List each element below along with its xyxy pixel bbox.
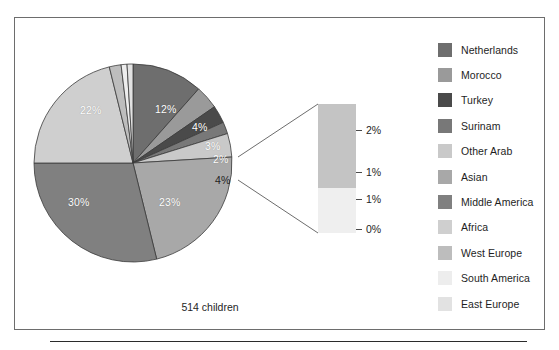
legend-label: Asian — [461, 171, 488, 183]
pie-slice-value-label: 4% — [192, 121, 207, 133]
legend-swatch — [438, 271, 452, 285]
tick-dash-icon — [356, 199, 362, 200]
legend-swatch — [438, 119, 452, 133]
pie-slice-value-label: 23% — [159, 196, 180, 208]
inset-tick-label: 1% — [366, 166, 381, 178]
legend-label: Turkey — [461, 94, 493, 106]
legend-label: Netherlands — [461, 44, 518, 56]
pie-slice-value-label: 2% — [213, 153, 228, 165]
tick-dash-icon — [356, 172, 362, 173]
legend-item: Other Arab — [438, 139, 543, 164]
legend-swatch — [438, 144, 452, 158]
legend-swatch — [438, 43, 452, 57]
legend-item: Africa — [438, 215, 543, 240]
tick-dash-icon — [356, 130, 362, 131]
legend-item: Surinam — [438, 113, 543, 138]
inset-tick: 0% — [356, 223, 381, 235]
inset-tick-label: 2% — [366, 124, 381, 136]
legend-swatch — [438, 297, 452, 311]
figure-root: 12%4%3%2%4%23%30%22% 2%1%1%0% Netherland… — [0, 0, 559, 350]
legend-item: Netherlands — [438, 37, 543, 62]
pie-slice-value-label: 3% — [205, 140, 220, 152]
legend-item: East Europe — [438, 291, 543, 316]
legend-swatch — [438, 68, 452, 82]
pie-slice-value-label: 12% — [155, 103, 176, 115]
pie-slice-value-label: 22% — [80, 104, 101, 116]
inset-band — [318, 188, 356, 233]
inset-tick-label: 1% — [366, 193, 381, 205]
legend-label: Africa — [461, 221, 488, 233]
pie-svg — [33, 63, 233, 263]
legend-label: Surinam — [461, 120, 500, 132]
bottom-divider — [50, 341, 527, 342]
legend-swatch — [438, 170, 452, 184]
legend-item: South America — [438, 266, 543, 291]
legend-label: South America — [461, 272, 530, 284]
legend-item: Asian — [438, 164, 543, 189]
chart-caption: 514 children — [0, 301, 420, 313]
tick-dash-icon — [356, 229, 362, 230]
inset-band — [318, 104, 356, 188]
legend: NetherlandsMoroccoTurkeySurinamOther Ara… — [438, 37, 543, 316]
pie-slice-value-label: 4% — [215, 174, 230, 186]
magnified-inset-bar — [318, 104, 356, 233]
legend-swatch — [438, 246, 452, 260]
pie-chart — [33, 63, 233, 263]
legend-item: Morocco — [438, 62, 543, 87]
legend-label: Middle America — [461, 196, 533, 208]
pie-slice-value-label: 30% — [68, 196, 89, 208]
legend-label: East Europe — [461, 298, 519, 310]
legend-label: Morocco — [461, 69, 502, 81]
legend-swatch — [438, 220, 452, 234]
inset-tick: 1% — [356, 193, 381, 205]
inset-tick: 1% — [356, 166, 381, 178]
inset-tick-label: 0% — [366, 223, 381, 235]
legend-swatch — [438, 195, 452, 209]
legend-item: Middle America — [438, 189, 543, 214]
inset-tick: 2% — [356, 124, 381, 136]
legend-item: West Europe — [438, 240, 543, 265]
legend-label: West Europe — [461, 247, 522, 259]
inset-tick-axis: 2%1%1%0% — [356, 104, 406, 233]
legend-label: Other Arab — [461, 145, 512, 157]
legend-item: Turkey — [438, 88, 543, 113]
legend-swatch — [438, 93, 452, 107]
